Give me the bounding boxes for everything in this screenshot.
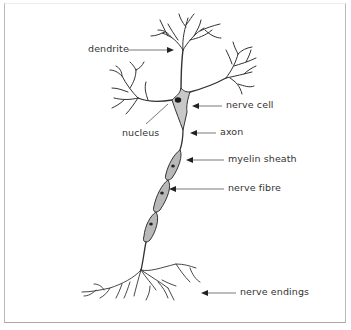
label-leaders bbox=[128, 47, 236, 296]
label-axon: axon bbox=[220, 126, 243, 137]
dendrite-left bbox=[110, 62, 172, 114]
nucleus bbox=[175, 97, 181, 103]
label-nerve-fibre: nerve fibre bbox=[228, 182, 281, 193]
nerve-cell-body bbox=[172, 88, 190, 130]
dendrite-right bbox=[190, 42, 256, 94]
dendrite-top bbox=[151, 14, 221, 95]
neuron-diagram bbox=[0, 0, 351, 330]
myelin-sheath bbox=[143, 150, 181, 242]
label-nerve-endings: nerve endings bbox=[240, 286, 309, 297]
label-dendrite: dendrite bbox=[88, 43, 129, 54]
label-nerve-cell: nerve cell bbox=[226, 99, 274, 110]
label-nucleus: nucleus bbox=[122, 127, 159, 138]
axon bbox=[180, 130, 183, 150]
axon-lower bbox=[141, 242, 146, 270]
label-myelin-sheath: myelin sheath bbox=[228, 153, 297, 164]
